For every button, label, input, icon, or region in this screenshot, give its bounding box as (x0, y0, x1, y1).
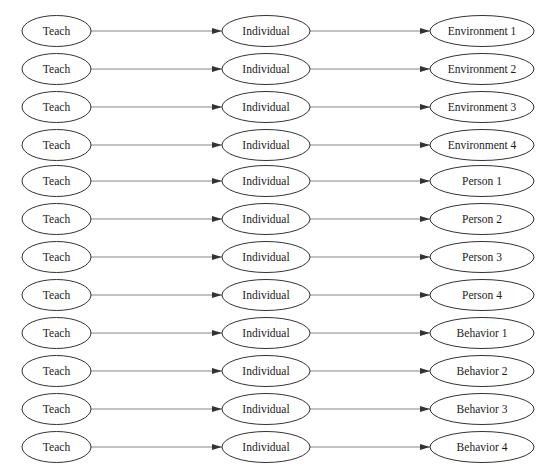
node-middle: Individual (222, 204, 310, 235)
node-label: Individual (242, 441, 289, 453)
node-label: Teach (43, 175, 71, 187)
node-label: Behavior 4 (457, 441, 508, 453)
diagram-row: TeachIndividualPerson 2 (22, 204, 534, 235)
node-target: Environment 1 (430, 16, 534, 47)
node-label: Teach (43, 63, 71, 75)
node-target: Person 2 (430, 204, 534, 235)
diagram-row: TeachIndividualEnvironment 1 (22, 16, 534, 47)
node-target: Behavior 4 (430, 432, 534, 463)
diagram-row: TeachIndividualBehavior 2 (22, 356, 534, 387)
node-target: Behavior 2 (430, 356, 534, 387)
node-source: Teach (22, 166, 91, 197)
node-label: Teach (43, 101, 71, 113)
node-source: Teach (22, 280, 91, 311)
node-target: Person 3 (430, 242, 534, 273)
node-source: Teach (22, 204, 91, 235)
diagram-row: TeachIndividualPerson 4 (22, 280, 534, 311)
node-middle: Individual (222, 394, 310, 425)
node-source: Teach (22, 16, 91, 47)
node-label: Individual (242, 289, 289, 301)
node-source: Teach (22, 242, 91, 273)
diagram-row: TeachIndividualBehavior 1 (22, 318, 534, 349)
node-label: Environment 2 (448, 63, 517, 75)
node-source: Teach (22, 432, 91, 463)
node-label: Teach (43, 25, 71, 37)
node-source: Teach (22, 394, 91, 425)
node-label: Individual (242, 101, 289, 113)
node-middle: Individual (222, 432, 310, 463)
node-source: Teach (22, 130, 91, 161)
node-source: Teach (22, 356, 91, 387)
node-label: Individual (242, 327, 289, 339)
node-middle: Individual (222, 92, 310, 123)
node-middle: Individual (222, 130, 310, 161)
node-label: Teach (43, 213, 71, 225)
node-target: Behavior 3 (430, 394, 534, 425)
node-source: Teach (22, 54, 91, 85)
diagram-row: TeachIndividualBehavior 3 (22, 394, 534, 425)
node-label: Person 1 (462, 175, 502, 187)
node-label: Teach (43, 251, 71, 263)
node-label: Teach (43, 289, 71, 301)
node-target: Environment 3 (430, 92, 534, 123)
node-label: Person 2 (462, 213, 502, 225)
diagram-row: TeachIndividualPerson 3 (22, 242, 534, 273)
node-label: Individual (242, 139, 289, 151)
node-middle: Individual (222, 16, 310, 47)
node-label: Teach (43, 365, 71, 377)
diagram-row: TeachIndividualEnvironment 4 (22, 130, 534, 161)
node-target: Environment 2 (430, 54, 534, 85)
diagram-row: TeachIndividualEnvironment 3 (22, 92, 534, 123)
node-label: Person 3 (462, 251, 502, 263)
node-middle: Individual (222, 280, 310, 311)
node-label: Behavior 3 (457, 403, 508, 415)
node-label: Environment 3 (448, 101, 517, 113)
node-label: Behavior 1 (457, 327, 508, 339)
node-middle: Individual (222, 166, 310, 197)
node-label: Individual (242, 25, 289, 37)
node-source: Teach (22, 318, 91, 349)
node-middle: Individual (222, 54, 310, 85)
flow-diagram: TeachIndividualEnvironment 1TeachIndivid… (0, 0, 553, 475)
diagram-row: TeachIndividualPerson 1 (22, 166, 534, 197)
node-target: Person 1 (430, 166, 534, 197)
node-middle: Individual (222, 242, 310, 273)
node-target: Behavior 1 (430, 318, 534, 349)
diagram-row: TeachIndividualEnvironment 2 (22, 54, 534, 85)
node-target: Environment 4 (430, 130, 534, 161)
node-label: Behavior 2 (457, 365, 508, 377)
diagram-row: TeachIndividualBehavior 4 (22, 432, 534, 463)
node-source: Teach (22, 92, 91, 123)
node-label: Environment 4 (448, 139, 517, 151)
node-label: Individual (242, 213, 289, 225)
diagram-rows: TeachIndividualEnvironment 1TeachIndivid… (22, 16, 534, 463)
node-label: Individual (242, 403, 289, 415)
node-label: Teach (43, 403, 71, 415)
node-label: Teach (43, 327, 71, 339)
node-label: Individual (242, 365, 289, 377)
node-label: Person 4 (462, 289, 502, 301)
node-middle: Individual (222, 356, 310, 387)
node-label: Individual (242, 63, 289, 75)
node-label: Teach (43, 441, 71, 453)
node-middle: Individual (222, 318, 310, 349)
node-label: Individual (242, 251, 289, 263)
node-label: Teach (43, 139, 71, 151)
node-label: Individual (242, 175, 289, 187)
node-label: Environment 1 (448, 25, 517, 37)
node-target: Person 4 (430, 280, 534, 311)
